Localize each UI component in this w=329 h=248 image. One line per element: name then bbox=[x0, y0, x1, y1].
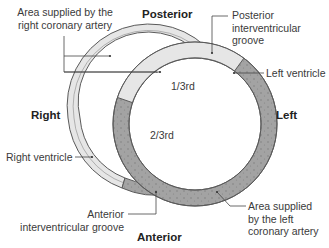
aiv-line1: Anterior bbox=[20, 208, 124, 221]
lca-area-line2: by the left bbox=[248, 213, 319, 226]
lca-area-line3: coronary artery bbox=[248, 225, 319, 238]
label-right-ventricle: Right ventricle bbox=[6, 151, 73, 164]
label-rca-area: Area supplied by the right coronary arte… bbox=[17, 6, 113, 31]
piv-line3: groove bbox=[232, 34, 301, 47]
orientation-posterior: Posterior bbox=[142, 8, 193, 21]
label-lca-area: Area supplied by the left coronary arter… bbox=[248, 200, 319, 238]
fraction-rca-1-3: 1/3rd bbox=[171, 80, 195, 93]
orientation-right: Right bbox=[31, 109, 60, 122]
left-ventricle-wall bbox=[113, 42, 277, 206]
lca-area-line1: Area supplied bbox=[248, 200, 319, 213]
label-posterior-iv-groove: Posterior interventricular groove bbox=[232, 9, 301, 47]
piv-line1: Posterior bbox=[232, 9, 301, 22]
rca-area-line2: right coronary artery bbox=[17, 19, 113, 32]
orientation-anterior: Anterior bbox=[137, 231, 182, 244]
piv-line2: interventricular bbox=[232, 22, 301, 35]
orientation-left: Left bbox=[276, 109, 297, 122]
aiv-line2: interventricular groove bbox=[20, 221, 124, 234]
rca-area-line1: Area supplied by the bbox=[17, 6, 113, 19]
label-left-ventricle: Left ventricle bbox=[266, 67, 326, 80]
fraction-lca-2-3: 2/3rd bbox=[150, 129, 174, 142]
label-anterior-iv-groove: Anterior interventricular groove bbox=[20, 208, 124, 233]
